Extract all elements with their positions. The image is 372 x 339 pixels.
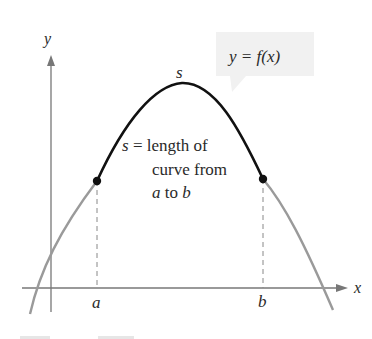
curve-right-segment [263, 179, 333, 310]
callout-pointer [230, 76, 246, 92]
x-axis-label: x [353, 279, 361, 296]
x-axis-arrow-icon [336, 284, 348, 292]
annotation-line-2: curve from [152, 160, 227, 179]
curve-label-callout: y = f(x) [216, 32, 314, 92]
annotation-line-1: s = length of [122, 136, 208, 155]
tick-label-a: a [92, 293, 101, 312]
annotation-line-1-text: = length of [129, 136, 208, 155]
y-axis-label: y [42, 30, 52, 48]
annotation-line-3: a to b [152, 183, 191, 202]
tick-label-b: b [258, 292, 267, 311]
annotation-b: b [182, 183, 191, 202]
point-a-marker [93, 177, 101, 185]
curve-label: y = f(x) [227, 47, 280, 66]
arc-length-annotation: s = length of curve from a to b [122, 136, 227, 202]
curve-left-segment [30, 181, 97, 314]
arc-length-diagram: y x s y = f(x) s = length of curve from … [0, 0, 372, 339]
y-axis-arrow-icon [47, 55, 55, 66]
annotation-to: to [161, 183, 183, 202]
point-b-marker [259, 175, 267, 183]
arc-label: s [176, 63, 183, 82]
annotation-a: a [152, 183, 161, 202]
